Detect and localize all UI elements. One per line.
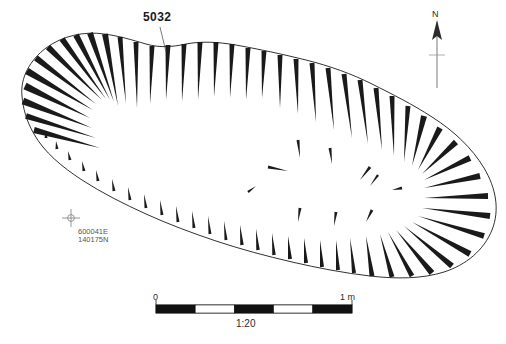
scale-bar-segment: [234, 305, 273, 313]
scale-bar: [156, 300, 352, 313]
hachure-mark-interior: [268, 166, 288, 171]
hachure-mark-interior: [329, 148, 332, 164]
hachure-mark: [320, 240, 324, 267]
feature-leader-line: [160, 27, 166, 52]
hachure-mark: [326, 68, 334, 130]
hachure-mark-interior: [366, 209, 373, 222]
hachure-mark: [294, 59, 299, 114]
scale-bar-segment: [274, 305, 313, 313]
hachure-mark: [422, 140, 458, 174]
hachure-mark: [82, 161, 85, 171]
hachure-mark: [68, 151, 71, 160]
hachure-mark: [278, 55, 283, 108]
hachure-mark: [56, 141, 59, 149]
hachure-mark: [102, 33, 118, 106]
hachure-mark: [198, 42, 203, 100]
hachure-mark: [256, 229, 260, 250]
hachure-mark: [176, 206, 179, 222]
hachure-mark: [336, 240, 340, 270]
hachure-mark: [96, 170, 99, 181]
hachure-mark: [192, 211, 195, 228]
hachure-mark: [366, 236, 374, 276]
hachure-mark-interior: [334, 212, 337, 226]
grid-northing-label: 140175N: [78, 235, 108, 244]
hachure-mark: [166, 45, 171, 100]
scale-ratio-label: 1:20: [236, 318, 255, 329]
hachure-mark: [208, 216, 211, 234]
hachure-mark: [134, 42, 139, 108]
hachure-mark: [396, 230, 434, 275]
hachure-mark: [246, 48, 251, 100]
hachure-mark: [304, 238, 308, 263]
hachure-mark-interior: [297, 140, 300, 158]
hachure-mark-interior: [298, 208, 301, 222]
hachure-mark-interior: [247, 186, 256, 193]
feature-number-label: 5032: [143, 10, 171, 24]
hachure-mark: [404, 106, 410, 162]
hachure-mark: [224, 221, 227, 240]
scale-bar-segment: [313, 305, 352, 313]
scale-bar-segment: [156, 305, 195, 313]
scale-bar-segment: [195, 305, 234, 313]
hachure-mark-interior: [360, 166, 371, 180]
hachure-mark: [240, 225, 244, 245]
hachure-mark: [374, 88, 382, 150]
hachure-mark: [390, 96, 395, 156]
hachure-mark: [182, 44, 187, 102]
hachure-mark: [422, 208, 490, 219]
hachure-interior-group: [247, 140, 402, 226]
hachure-mark: [118, 37, 126, 104]
scale-bar-min-label: 0: [153, 292, 158, 302]
hachure-mark: [230, 44, 235, 98]
grid-cross-icon: [62, 209, 80, 227]
hachure-mark: [128, 187, 131, 200]
hachure-mark: [214, 42, 219, 97]
hachure-mark: [424, 155, 471, 180]
hachure-mark: [112, 179, 115, 191]
hachure-mark: [418, 216, 485, 239]
hachure-mark: [272, 233, 276, 255]
plan-drawing-canvas: [0, 0, 506, 344]
north-arrow-label: N: [432, 9, 439, 19]
hachure-mark: [150, 46, 155, 104]
hachure-mark: [342, 74, 352, 138]
hachure-mark: [358, 80, 368, 144]
archaeological-plan-figure: 5032 N 600041E 140175N 0 1 m 1:20: [0, 0, 506, 344]
hachure-mark: [288, 236, 292, 259]
scale-bar-max-label: 1 m: [340, 292, 355, 302]
hachure-mark: [144, 194, 147, 208]
hachure-mark: [262, 51, 267, 98]
hachure-mark: [424, 193, 488, 199]
hachure-mark: [160, 200, 163, 215]
hachure-mark: [350, 238, 356, 273]
hachure-mark: [310, 63, 316, 122]
hachure-mark-interior: [370, 174, 379, 186]
hachure-mark: [33, 127, 100, 148]
north-arrow-icon: [429, 20, 445, 88]
hachure-mark-interior: [392, 187, 402, 190]
